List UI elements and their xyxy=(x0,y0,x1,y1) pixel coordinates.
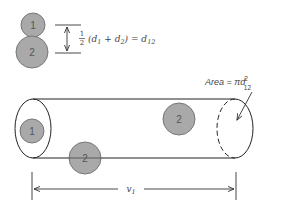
area-label: Area = πd212 xyxy=(204,75,252,91)
velocity-label: v1 xyxy=(126,184,135,196)
fraction-numerator: 1 xyxy=(80,30,84,38)
particle-2-top-label: 2 xyxy=(29,47,35,58)
fraction-denominator: 2 xyxy=(80,39,84,47)
top-particle-pair: 1 2 xyxy=(16,13,48,68)
area-pointer-arrow xyxy=(237,92,252,120)
velocity-dimension: v1 xyxy=(32,172,236,200)
d12-formula: 1 2 (d1 + d2) = d12 xyxy=(79,30,155,47)
particle-2-top-right-label: 2 xyxy=(176,114,182,125)
cylinder-right-end-back xyxy=(217,99,235,158)
area-annotation: Area = πd212 xyxy=(204,75,252,120)
cylinder-particles: 1 2 2 xyxy=(20,103,195,174)
particle-2-bottom-label: 2 xyxy=(82,153,88,164)
collision-cylinder xyxy=(15,99,253,158)
formula-expression: (d1 + d2) = d12 xyxy=(88,34,155,46)
particle-1-top-label: 1 xyxy=(30,20,36,31)
collision-diagram: 1 2 1 2 (d1 + d2) = d12 1 2 2 xyxy=(0,0,288,208)
d12-dimension xyxy=(55,25,81,53)
particle-1-inside-label: 1 xyxy=(29,126,35,137)
